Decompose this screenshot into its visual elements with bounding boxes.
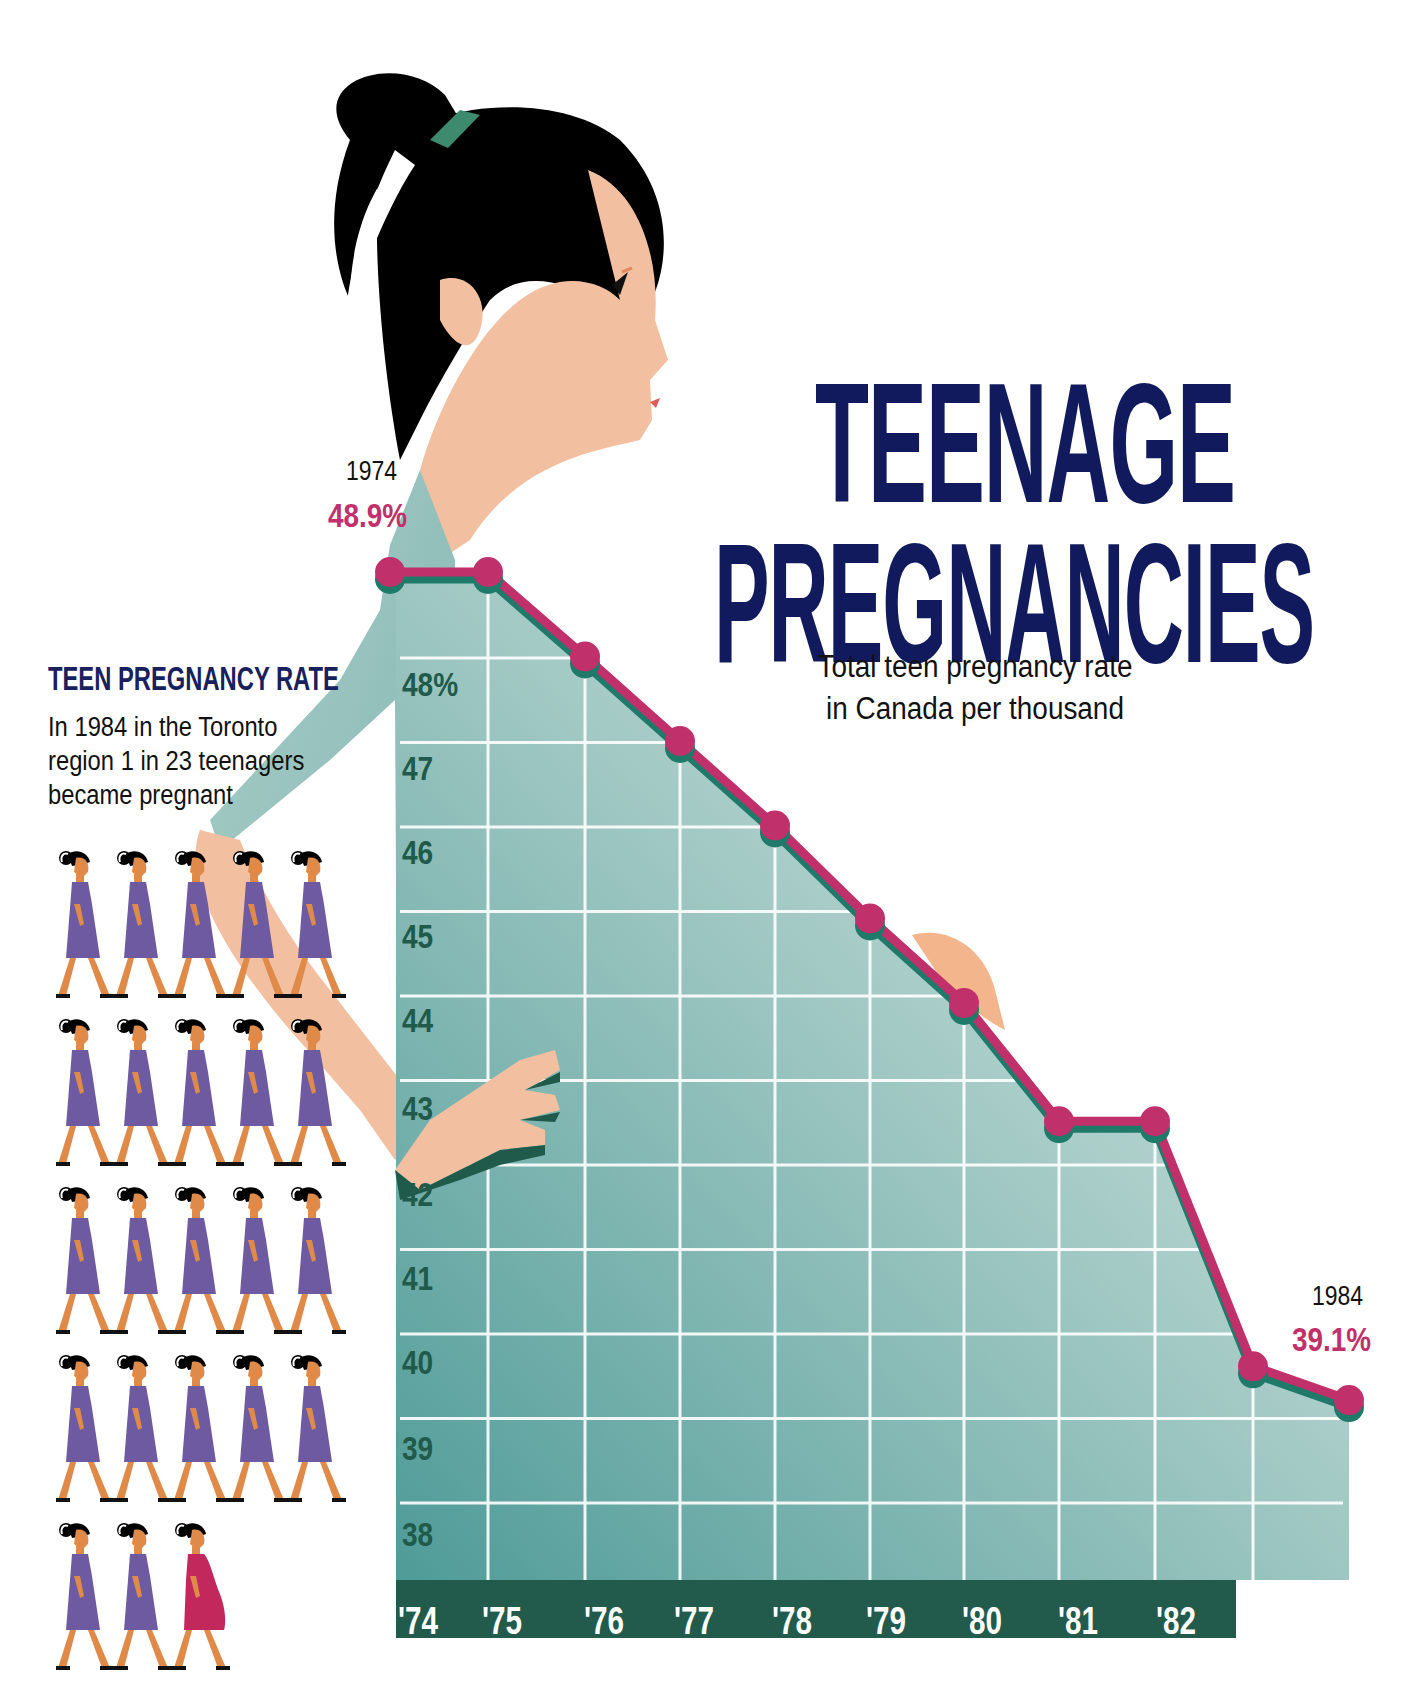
data-point-81: [1044, 1106, 1074, 1136]
teen-figure: [230, 1019, 288, 1166]
teen-figure: [230, 1187, 288, 1334]
data-point-84: [1334, 1385, 1364, 1415]
teen-figure: [114, 1019, 172, 1166]
teen-figure: [56, 1523, 114, 1670]
x-tick-75: '75: [482, 1600, 522, 1643]
y-tick-46: 46: [402, 834, 433, 872]
x-tick-78: '78: [772, 1600, 812, 1643]
teen-figure: [288, 1187, 346, 1334]
x-tick-80: '80: [962, 1600, 1002, 1643]
data-point-79: [855, 903, 885, 933]
data-point-74: [375, 557, 405, 587]
sidebar-heading: TEEN PREGNANCY RATE: [48, 660, 339, 698]
teen-figure: [114, 1523, 172, 1670]
data-point-78: [760, 811, 790, 841]
girl-head-illustration: [334, 73, 668, 560]
teen-figures-grid: [56, 851, 346, 1670]
infographic-art: [0, 0, 1424, 1702]
teen-figure: [56, 1019, 114, 1166]
start-value-label: 48.9%: [328, 496, 407, 535]
y-tick-39: 39: [402, 1430, 433, 1468]
sidebar-text: In 1984 in the Toronto region 1 in 23 te…: [48, 710, 304, 812]
data-point-76: [570, 642, 600, 672]
data-point-80: [949, 988, 979, 1018]
x-tick-77: '77: [674, 1600, 714, 1643]
teen-figure: [230, 1355, 288, 1502]
x-tick-83: '83: [1250, 1600, 1290, 1643]
data-point-77: [665, 726, 695, 756]
data-point-82: [1140, 1106, 1170, 1136]
y-tick-38: 38: [402, 1516, 433, 1554]
x-tick-76: '76: [584, 1600, 624, 1643]
y-tick-40: 40: [402, 1344, 433, 1382]
teen-figure: [56, 1187, 114, 1334]
y-tick-47: 47: [402, 750, 433, 788]
y-tick-41: 41: [402, 1260, 433, 1298]
x-tick-82: '82: [1156, 1600, 1196, 1643]
teen-figure: [56, 1355, 114, 1502]
teen-figure: [114, 851, 172, 998]
data-point-75: [473, 557, 503, 587]
subtitle-line-1: Total teen pregnancy rate: [764, 648, 1187, 686]
x-tick-79: '79: [866, 1600, 906, 1643]
y-tick-43: 43: [402, 1090, 433, 1128]
teen-figure: [288, 1355, 346, 1502]
teen-figure: [114, 1355, 172, 1502]
teen-figure: [56, 851, 114, 998]
end-value-label: 39.1%: [1292, 1320, 1371, 1359]
teen-figure: [114, 1187, 172, 1334]
teen-figure: [172, 1019, 230, 1166]
data-point-83: [1238, 1351, 1268, 1381]
y-tick-48: 48%: [402, 666, 458, 704]
pregnant-teen-figure: [172, 1523, 230, 1670]
teen-figure: [172, 1187, 230, 1334]
end-year-label: 1984: [1312, 1281, 1363, 1312]
teen-figure: [172, 1355, 230, 1502]
subtitle-line-2: in Canada per thousand: [764, 690, 1187, 728]
y-tick-42: 42: [402, 1176, 433, 1214]
y-tick-44: 44: [402, 1002, 433, 1040]
y-tick-45: 45: [402, 918, 433, 956]
x-tick-74: '74: [398, 1600, 438, 1643]
x-tick-81: '81: [1058, 1600, 1098, 1643]
start-year-label: 1974: [346, 456, 397, 487]
